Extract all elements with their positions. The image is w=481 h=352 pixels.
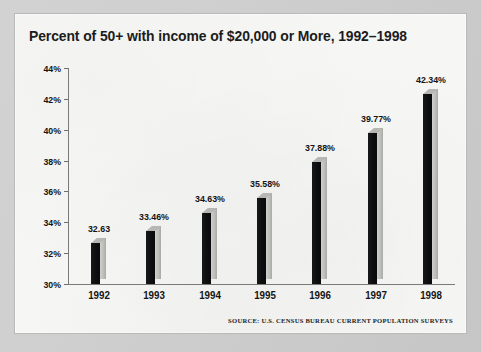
y-axis-tick-label: 30%: [26, 279, 61, 290]
y-axis-tick-label: 42%: [26, 93, 61, 104]
bar-front-face: [312, 162, 321, 284]
y-axis-tick-label: 40%: [26, 124, 61, 135]
y-axis-tick-mark: [64, 253, 68, 254]
x-axis-tick-label-1998: 1998: [405, 289, 455, 301]
chart-card: Percent of 50+ with income of $20,000 or…: [14, 13, 467, 334]
bar-side-face: [432, 89, 438, 279]
x-axis-tick-label-1997: 1997: [350, 289, 400, 301]
y-axis-tick-label: 44%: [26, 63, 61, 74]
bar-side-face: [266, 193, 272, 279]
bar-side-face: [321, 157, 327, 279]
bar-1993: [146, 226, 161, 284]
bar-front-face: [368, 133, 377, 284]
x-axis-line: [68, 284, 455, 285]
bar-side-face: [377, 128, 383, 279]
x-axis-tick-label-1992: 1992: [73, 289, 123, 301]
bar-value-label-1997: 39.77%: [350, 113, 400, 124]
bar-front-face: [91, 243, 100, 284]
source-note: SOURCE: U.S. CENSUS BUREAU CURRENT POPUL…: [228, 317, 453, 324]
y-axis-tick-label: 38%: [26, 155, 61, 166]
bar-front-face: [257, 198, 266, 284]
bar-value-label-1998: 42.34%: [405, 74, 455, 85]
bar-1995: [257, 193, 272, 284]
bar-front-face: [146, 231, 155, 284]
bar-front-face: [202, 213, 211, 284]
bar-side-face: [100, 238, 106, 279]
y-axis-tick-mark: [64, 130, 68, 131]
bar-chart-plot-area: 30%32%34%36%38%40%42%44%32.63199233.46%1…: [15, 14, 466, 333]
bar-1996: [312, 157, 327, 284]
bar-1994: [202, 208, 217, 284]
x-axis-tick-label-1996: 1996: [294, 289, 344, 301]
x-axis-tick-label-1993: 1993: [128, 289, 178, 301]
bar-value-label-1993: 33.46%: [128, 211, 178, 222]
bar-1997: [368, 128, 383, 284]
y-axis-tick-mark: [64, 284, 68, 285]
x-axis-tick-label-1995: 1995: [239, 289, 289, 301]
y-axis-tick-mark: [64, 99, 68, 100]
y-axis-tick-label: 34%: [26, 217, 61, 228]
bar-1992: [91, 238, 106, 284]
y-axis-tick-mark: [64, 191, 68, 192]
y-axis-tick-mark: [64, 161, 68, 162]
bar-front-face: [423, 94, 432, 284]
y-axis-tick-label: 32%: [26, 248, 61, 259]
bar-value-label-1996: 37.88%: [294, 142, 344, 153]
bar-1998: [423, 89, 438, 284]
bar-side-face: [155, 226, 161, 279]
bar-value-label-1994: 34.63%: [184, 193, 234, 204]
bar-side-face: [211, 208, 217, 279]
y-axis-tick-mark: [64, 68, 68, 69]
y-axis-tick-label: 36%: [26, 186, 61, 197]
x-axis-tick-label-1994: 1994: [184, 289, 234, 301]
bar-value-label-1992: 32.63: [73, 223, 123, 234]
y-axis-tick-mark: [64, 222, 68, 223]
bar-value-label-1995: 35.58%: [239, 178, 289, 189]
y-axis-line: [68, 68, 69, 285]
